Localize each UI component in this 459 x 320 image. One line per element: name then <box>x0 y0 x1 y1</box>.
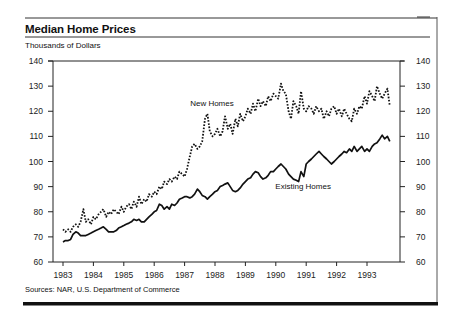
existing-homes-line <box>63 135 390 242</box>
y-tick-label-right: 70 <box>416 232 426 242</box>
y-tick-label-left: 110 <box>29 131 43 141</box>
y-axis-left-ticks: 60708090100110120130140 <box>29 56 53 267</box>
existing-homes-label: Existing Homes <box>275 182 331 191</box>
y-tick-label-left: 120 <box>29 106 43 116</box>
y-tick-label-right: 140 <box>416 56 430 66</box>
y-tick-label-left: 100 <box>29 157 43 167</box>
x-tick-label: 1992 <box>327 270 346 280</box>
x-axis-ticks: 1983198419851986198719881989199019911992… <box>54 262 377 280</box>
y-tick-label-right: 90 <box>416 182 426 192</box>
x-tick-label: 1984 <box>84 270 103 280</box>
new-homes-label: New Homes <box>190 99 234 108</box>
x-tick-label: 1987 <box>175 270 194 280</box>
y-axis-right-ticks: 60708090100110120130140 <box>400 56 430 267</box>
x-tick-label: 1989 <box>236 270 255 280</box>
x-tick-label: 1990 <box>266 270 285 280</box>
y-tick-label-right: 120 <box>416 106 430 116</box>
bottom-thick-rule <box>23 302 438 306</box>
x-tick-label: 1985 <box>114 270 133 280</box>
y-tick-label-left: 140 <box>29 56 43 66</box>
y-tick-label-left: 60 <box>34 257 44 267</box>
y-tick-label-right: 130 <box>416 81 430 91</box>
x-tick-label: 1988 <box>206 270 225 280</box>
x-tick-label: 1986 <box>145 270 164 280</box>
y-tick-label-right: 80 <box>416 207 426 217</box>
y-tick-label-left: 80 <box>34 207 44 217</box>
y-tick-label-right: 60 <box>416 257 426 267</box>
y-tick-label-left: 90 <box>34 182 44 192</box>
y-tick-label-left: 70 <box>34 232 44 242</box>
y-tick-label-left: 130 <box>29 81 43 91</box>
y-tick-label-right: 110 <box>416 131 430 141</box>
x-tick-label: 1993 <box>358 270 377 280</box>
x-tick-label: 1983 <box>54 270 73 280</box>
y-tick-label-right: 100 <box>416 157 430 167</box>
line-chart: 60708090100110120130140 6070809010011012… <box>0 0 459 320</box>
x-tick-label: 1991 <box>297 270 316 280</box>
